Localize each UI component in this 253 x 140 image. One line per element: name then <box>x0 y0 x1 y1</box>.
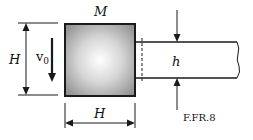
plate <box>135 38 240 82</box>
arrow-right-icon <box>127 120 135 127</box>
arrow-down-icon <box>23 87 30 95</box>
figure-caption: F.FR.8 <box>183 112 216 123</box>
height-label: H <box>8 52 21 67</box>
arrow-down-icon <box>174 34 181 42</box>
velocity-label: v0 <box>35 49 49 66</box>
impact-diagram: M H v0 H h F.FR.8 <box>0 0 253 140</box>
arrow-down-icon <box>48 73 56 82</box>
velocity-arrow <box>48 38 56 82</box>
width-label: H <box>93 106 106 121</box>
mass-block <box>65 24 135 96</box>
mass-label: M <box>93 4 108 19</box>
break-line <box>237 42 240 78</box>
arrow-left-icon <box>65 120 73 127</box>
arrow-up-icon <box>23 23 30 31</box>
thickness-label: h <box>172 54 180 69</box>
arrow-up-icon <box>174 78 181 86</box>
